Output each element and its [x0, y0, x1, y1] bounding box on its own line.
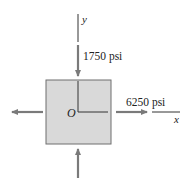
origin-label: O: [67, 106, 76, 120]
y-axis-label: y: [81, 13, 87, 25]
x-stress-label: 6250 psi: [126, 96, 165, 109]
stress-element-diagram: y 1750 psi O 6250 psi x: [0, 0, 190, 190]
x-axis-label: x: [173, 113, 179, 125]
y-stress-label: 1750 psi: [83, 50, 122, 63]
